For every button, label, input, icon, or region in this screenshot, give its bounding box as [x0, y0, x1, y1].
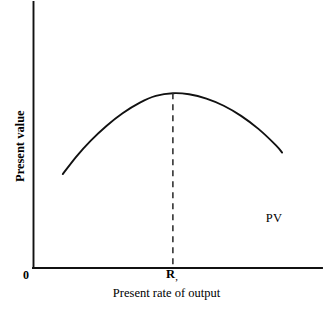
y-axis-title: Present value	[14, 52, 27, 182]
origin-label: 0	[23, 269, 29, 281]
x-axis-tick-label-subscript: ,	[175, 272, 177, 282]
x-axis-title: Present rate of output	[0, 287, 333, 300]
chart-background	[0, 0, 333, 312]
chart-canvas	[0, 0, 333, 312]
x-axis-tick-label-main: R	[166, 267, 175, 281]
x-axis-tick-label-optimum: R,	[166, 268, 177, 281]
curve-label-pv: PV	[266, 212, 283, 225]
present-value-figure: 0 R, Present rate of output Present valu…	[0, 0, 333, 312]
